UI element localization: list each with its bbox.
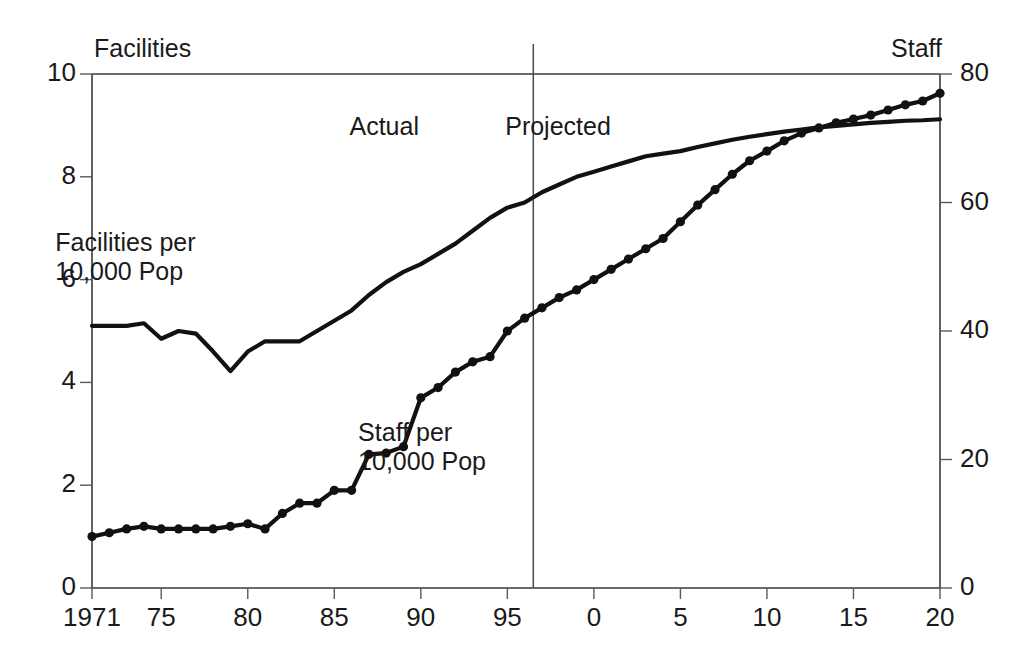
x-axis-tick-label: 80 <box>198 602 298 633</box>
series-marker-staff <box>157 524 166 533</box>
annotation-projected: Projected <box>505 112 705 142</box>
y-axis-tick-label: 0 <box>8 571 76 602</box>
chart-axes <box>92 74 940 588</box>
series-marker-staff <box>485 352 494 361</box>
x-axis-tick-label: 85 <box>284 602 384 633</box>
facilities-axis-title: Facilities <box>94 34 334 64</box>
series-marker-staff <box>883 105 892 114</box>
axis-frame <box>92 74 940 588</box>
chart-container: 02468100204060801971758085909505101520Fa… <box>0 0 1036 659</box>
y2-axis-tick-label: 80 <box>960 57 1030 88</box>
x-axis-tick-label: 10 <box>717 602 817 633</box>
y-axis-tick-label: 2 <box>8 468 76 499</box>
series-marker-staff <box>918 96 927 105</box>
series-marker-staff <box>762 147 771 156</box>
series-marker-staff <box>901 100 910 109</box>
x-axis-tick-label: 0 <box>544 602 644 633</box>
x-axis-tick-label: 15 <box>803 602 903 633</box>
series-marker-staff <box>520 314 529 323</box>
series-marker-staff <box>174 524 183 533</box>
series-marker-staff <box>260 524 269 533</box>
y-axis-tick-label: 4 <box>8 365 76 396</box>
staff-axis-title: Staff <box>702 34 942 64</box>
series-marker-staff <box>278 509 287 518</box>
chart-canvas <box>0 0 1036 659</box>
series-marker-staff <box>105 528 114 537</box>
series-marker-staff <box>849 114 858 123</box>
series-marker-staff <box>330 486 339 495</box>
series-marker-staff <box>641 244 650 253</box>
series-marker-staff <box>243 519 252 528</box>
y2-axis-tick-label: 0 <box>960 571 1030 602</box>
x-axis-tick-label: 20 <box>890 602 990 633</box>
series-marker-staff <box>745 156 754 165</box>
series-marker-staff <box>451 368 460 377</box>
series-marker-staff <box>87 532 96 541</box>
y-axis-tick-label: 8 <box>8 160 76 191</box>
series-marker-staff <box>659 234 668 243</box>
series-marker-staff <box>728 170 737 179</box>
series-marker-staff <box>503 326 512 335</box>
series-marker-staff <box>122 524 131 533</box>
series-marker-staff <box>866 111 875 120</box>
series-marker-staff <box>832 118 841 127</box>
series-marker-staff <box>468 357 477 366</box>
series-marker-staff <box>434 383 443 392</box>
annotation-facilities-series-line-0: Facilities per <box>55 228 255 258</box>
series-marker-staff <box>226 522 235 531</box>
chart-tick-marks <box>80 74 952 599</box>
y-axis-tick-label: 10 <box>8 57 76 88</box>
series-marker-staff <box>209 524 218 533</box>
series-marker-staff <box>693 200 702 209</box>
series-marker-staff <box>935 89 944 98</box>
annotation-facilities-series-line-1: 10,000 Pop <box>55 257 255 287</box>
y2-axis-tick-label: 40 <box>960 314 1030 345</box>
annotation-facilities-series: Facilities per10,000 Pop <box>55 228 255 287</box>
annotation-projected-line-0: Projected <box>505 112 705 142</box>
y2-axis-tick-label: 20 <box>960 443 1030 474</box>
series-marker-staff <box>797 129 806 138</box>
series-marker-staff <box>537 303 546 312</box>
series-marker-staff <box>312 499 321 508</box>
series-marker-staff <box>607 265 616 274</box>
series-marker-staff <box>139 522 148 531</box>
x-axis-tick-label: 90 <box>371 602 471 633</box>
series-marker-staff <box>416 393 425 402</box>
x-axis-tick-label: 95 <box>457 602 557 633</box>
x-axis-tick-label: 5 <box>630 602 730 633</box>
series-marker-staff <box>555 293 564 302</box>
annotation-staff-series-line-1: 10,000 Pop <box>358 447 558 477</box>
series-marker-staff <box>295 499 304 508</box>
series-marker-staff <box>572 285 581 294</box>
y2-axis-tick-label: 60 <box>960 186 1030 217</box>
series-marker-staff <box>347 486 356 495</box>
series-marker-staff <box>676 217 685 226</box>
annotation-staff-series-line-0: Staff per <box>358 418 558 448</box>
series-marker-staff <box>624 254 633 263</box>
series-marker-staff <box>710 185 719 194</box>
series-marker-staff <box>589 275 598 284</box>
series-marker-staff <box>814 123 823 132</box>
annotation-staff-series: Staff per10,000 Pop <box>358 418 558 477</box>
x-axis-tick-label: 75 <box>111 602 211 633</box>
series-marker-staff <box>780 136 789 145</box>
series-marker-staff <box>191 524 200 533</box>
